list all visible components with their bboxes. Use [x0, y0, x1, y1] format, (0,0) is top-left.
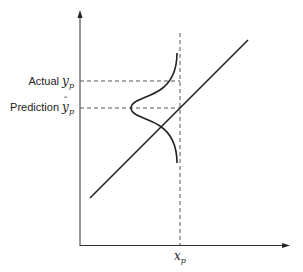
prediction-subscript: p: [69, 107, 74, 116]
regression-line: [90, 40, 248, 198]
actual-label: Actual yp: [28, 75, 74, 92]
regression-prediction-diagram: [0, 0, 303, 272]
prediction-label-text: Prediction: [10, 101, 59, 113]
y-axis-arrow-icon: [78, 10, 83, 18]
prediction-symbol-yhat: y: [62, 101, 69, 113]
actual-label-text: Actual: [28, 75, 59, 87]
actual-subscript: p: [69, 81, 74, 90]
prediction-label: Prediction yp: [10, 101, 74, 118]
x-subscript: p: [181, 256, 186, 265]
x-axis-arrow-icon: [282, 243, 290, 248]
xp-label: xp: [174, 250, 186, 267]
actual-symbol: y: [62, 74, 69, 88]
x-symbol: x: [174, 249, 181, 263]
